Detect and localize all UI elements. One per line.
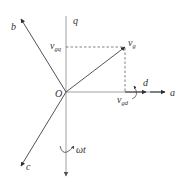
d-axis-label: d	[143, 77, 149, 88]
origin-label: O	[55, 88, 62, 99]
b-axis-label: b	[11, 21, 16, 32]
b-axis-line	[21, 19, 66, 92]
omega-t-label: ωt	[76, 144, 86, 155]
vgd-label: vgd	[117, 94, 129, 106]
c-axis-label: c	[26, 161, 31, 172]
c-axis-line	[21, 92, 66, 166]
rotation-arrow-icon	[60, 146, 74, 152]
vgq-label: vgq	[50, 40, 62, 52]
vg-vector	[66, 47, 125, 92]
a-axis-label: a	[170, 87, 175, 98]
dq-phasor-diagram: O q a b c d vg vgq vgd ωt	[0, 0, 185, 182]
vg-label: vg	[128, 37, 136, 49]
q-axis-label: q	[73, 15, 78, 26]
